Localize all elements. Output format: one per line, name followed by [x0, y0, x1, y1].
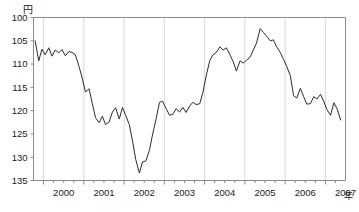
- x-tick-label-2001: 2001: [93, 187, 114, 198]
- x-tick-label-2006: 2006: [295, 187, 316, 198]
- y-tick-label-105: 105: [12, 35, 28, 46]
- x-tick-label-2004: 2004: [214, 187, 235, 198]
- exchange-rate-chart: 100105110115120125130135 200020012002200…: [0, 0, 359, 212]
- y-tick-label-115: 115: [12, 82, 27, 93]
- gridlines: [44, 18, 326, 181]
- chart-canvas: 100105110115120125130135 200020012002200…: [0, 0, 359, 212]
- x-tick-label-2002: 2002: [134, 187, 155, 198]
- series-line-0: [35, 29, 341, 173]
- x-tick-label-2000: 2000: [53, 187, 74, 198]
- x-axis-ticks: [44, 181, 336, 185]
- x-tick-label-2005: 2005: [254, 187, 275, 198]
- y-tick-label-135: 135: [12, 175, 28, 186]
- plot-frame: [34, 18, 346, 181]
- y-tick-label-130: 130: [12, 152, 28, 163]
- y-tick-label-120: 120: [12, 105, 28, 116]
- y-tick-label-110: 110: [12, 58, 27, 69]
- x-tick-label-2003: 2003: [174, 187, 195, 198]
- y-tick-label-125: 125: [12, 128, 28, 139]
- data-series: [35, 29, 341, 173]
- y-axis-tick-labels: 100105110115120125130135: [12, 12, 28, 186]
- x-axis-unit-label: 年: [344, 190, 353, 201]
- y-axis-unit-label: 円: [23, 4, 33, 15]
- x-axis-tick-labels: 20002001200220032004200520062007: [53, 187, 356, 198]
